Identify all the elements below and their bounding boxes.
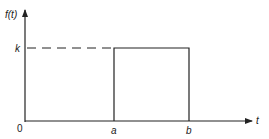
pulse-rectangle [114,48,189,121]
k-label: k [15,43,21,54]
t-label: t [256,115,260,126]
origin-label: 0 [17,123,23,134]
b-label: b [186,125,192,136]
pulse-diagram: f(t) k 0 a b t [0,0,269,139]
a-label: a [111,125,117,136]
y-axis-label: f(t) [5,9,17,20]
